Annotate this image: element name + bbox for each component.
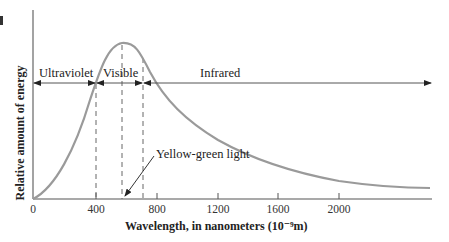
x-tick-label: 2000 bbox=[328, 203, 351, 215]
x-axis-label: Wavelength, in nanometers (10⁻⁹m) bbox=[125, 219, 308, 234]
x-tick-label: 0 bbox=[30, 203, 36, 215]
annotation-yellow-green: Yellow-green light bbox=[156, 147, 250, 162]
region-label-infrared: Infrared bbox=[200, 66, 240, 81]
x-tick-label: 400 bbox=[87, 203, 104, 215]
x-tick-label: 800 bbox=[148, 203, 165, 215]
y-axis-label: Relative amount of energy bbox=[13, 66, 28, 201]
x-tick-label: 1600 bbox=[267, 203, 290, 215]
x-ticks bbox=[96, 193, 339, 199]
region-label-ultraviolet: Ultraviolet bbox=[39, 66, 93, 81]
region-label-visible: Visible bbox=[103, 66, 138, 81]
yellow-green-pointer bbox=[125, 156, 154, 196]
x-tick-label: 1200 bbox=[207, 203, 230, 215]
